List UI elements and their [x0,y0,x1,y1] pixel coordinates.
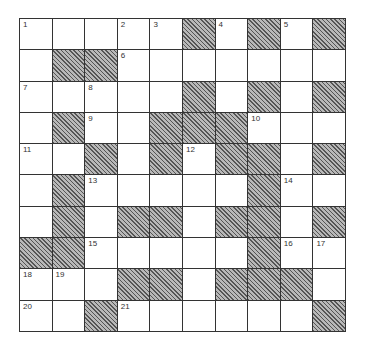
answer-cell[interactable] [281,113,313,143]
black-cell [53,175,85,205]
answer-cell[interactable] [183,269,215,299]
clue-number: 1 [23,21,27,29]
answer-cell[interactable]: 3 [150,19,182,49]
black-cell [216,269,248,299]
clue-number: 13 [88,177,97,185]
answer-cell[interactable]: 17 [313,238,345,268]
answer-cell[interactable]: 14 [281,175,313,205]
answer-cell[interactable] [281,207,313,237]
answer-cell[interactable] [20,207,52,237]
answer-cell[interactable] [20,50,52,80]
answer-cell[interactable] [150,301,182,331]
answer-cell[interactable] [53,144,85,174]
black-cell [216,113,248,143]
answer-cell[interactable] [183,238,215,268]
answer-cell[interactable] [216,301,248,331]
answer-cell[interactable] [313,175,345,205]
black-cell [313,301,345,331]
black-cell [313,82,345,112]
answer-cell[interactable]: 4 [216,19,248,49]
answer-cell[interactable] [248,50,280,80]
clue-number: 16 [284,240,293,248]
answer-cell[interactable]: 19 [53,269,85,299]
answer-cell[interactable] [281,144,313,174]
black-cell [313,19,345,49]
answer-cell[interactable] [150,175,182,205]
black-cell [248,19,280,49]
answer-cell[interactable] [183,301,215,331]
answer-cell[interactable]: 12 [183,144,215,174]
black-cell [53,207,85,237]
clue-number: 10 [251,115,260,123]
answer-cell[interactable]: 6 [118,50,150,80]
answer-cell[interactable] [118,175,150,205]
black-cell [20,238,52,268]
answer-cell[interactable] [281,301,313,331]
crossword-grid: 123456789101112131415161718192021 [19,18,346,332]
answer-cell[interactable] [85,269,117,299]
answer-cell[interactable] [20,175,52,205]
black-cell [313,144,345,174]
black-cell [248,207,280,237]
answer-cell[interactable] [53,82,85,112]
black-cell [85,144,117,174]
answer-cell[interactable] [313,269,345,299]
answer-cell[interactable]: 13 [85,175,117,205]
answer-cell[interactable] [53,19,85,49]
answer-cell[interactable]: 9 [85,113,117,143]
answer-cell[interactable]: 10 [248,113,280,143]
black-cell [216,144,248,174]
answer-cell[interactable]: 7 [20,82,52,112]
black-cell [118,207,150,237]
clue-number: 5 [284,21,288,29]
answer-cell[interactable] [150,50,182,80]
answer-cell[interactable] [216,50,248,80]
answer-cell[interactable] [313,50,345,80]
clue-number: 12 [186,146,195,154]
clue-number: 20 [23,303,32,311]
answer-cell[interactable]: 1 [20,19,52,49]
answer-cell[interactable] [85,19,117,49]
answer-cell[interactable] [150,238,182,268]
answer-cell[interactable] [150,82,182,112]
answer-cell[interactable] [118,238,150,268]
answer-cell[interactable] [183,207,215,237]
clue-number: 8 [88,84,92,92]
answer-cell[interactable] [85,207,117,237]
answer-cell[interactable] [183,175,215,205]
black-cell [53,113,85,143]
answer-cell[interactable] [216,175,248,205]
answer-cell[interactable]: 5 [281,19,313,49]
answer-cell[interactable]: 16 [281,238,313,268]
answer-cell[interactable] [183,50,215,80]
answer-cell[interactable] [20,113,52,143]
answer-cell[interactable]: 20 [20,301,52,331]
answer-cell[interactable] [118,113,150,143]
answer-cell[interactable] [216,82,248,112]
clue-number: 18 [23,271,32,279]
black-cell [248,175,280,205]
answer-cell[interactable] [53,301,85,331]
black-cell [248,82,280,112]
answer-cell[interactable]: 18 [20,269,52,299]
clue-number: 7 [23,84,27,92]
black-cell [183,113,215,143]
black-cell [53,50,85,80]
clue-number: 11 [23,146,31,154]
answer-cell[interactable]: 2 [118,19,150,49]
clue-number: 3 [153,21,157,29]
answer-cell[interactable] [248,301,280,331]
answer-cell[interactable] [281,82,313,112]
answer-cell[interactable] [313,113,345,143]
answer-cell[interactable]: 21 [118,301,150,331]
answer-cell[interactable]: 15 [85,238,117,268]
clue-number: 21 [121,303,130,311]
clue-number: 17 [316,240,325,248]
answer-cell[interactable] [281,50,313,80]
answer-cell[interactable]: 11 [20,144,52,174]
black-cell [85,50,117,80]
answer-cell[interactable] [118,144,150,174]
answer-cell[interactable] [118,82,150,112]
answer-cell[interactable]: 8 [85,82,117,112]
answer-cell[interactable] [216,238,248,268]
